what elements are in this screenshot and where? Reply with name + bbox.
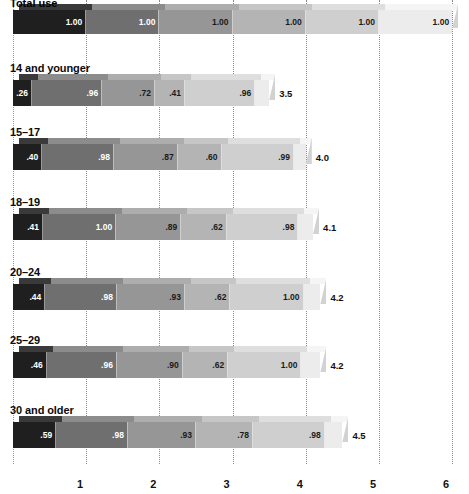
bar-segment[interactable]: .93: [128, 422, 196, 448]
segment-value-label: .41: [169, 89, 181, 98]
segment-value-label: .87: [162, 153, 174, 162]
segment-value-label: 1.00: [433, 18, 450, 27]
row-total-label: 3.5: [279, 88, 292, 99]
bar-segment[interactable]: [304, 284, 321, 310]
segment-value-label: .26: [16, 89, 28, 98]
bar-segment[interactable]: .98: [45, 284, 117, 310]
segment-value-label: 1.00: [285, 18, 302, 27]
bar-segment[interactable]: .59: [13, 422, 56, 448]
bar-top-segment: [233, 208, 305, 214]
bar-segment[interactable]: .62: [185, 284, 230, 310]
segment-value-label: .59: [40, 431, 52, 440]
bar-top-segment: [184, 138, 228, 144]
segment-value-label: .62: [215, 293, 227, 302]
x-axis-tick-3: 3: [223, 478, 232, 490]
bar-top-segment: [19, 278, 51, 284]
bar-top-segment: [51, 278, 123, 284]
bar-top-segment: [134, 416, 202, 422]
x-axis-tick-5: 5: [370, 478, 379, 490]
stacked-bar[interactable]: 1.001.001.001.001.001.00: [13, 10, 452, 34]
stacked-bar[interactable]: .46.96.90.621.00: [13, 352, 320, 378]
row-total-label: 4.5: [352, 430, 365, 441]
bar-segment[interactable]: 1.00: [306, 10, 379, 34]
bar-segment[interactable]: .90: [117, 352, 183, 378]
row-label: 18–19: [10, 196, 40, 208]
bar-segment[interactable]: 1.00: [228, 352, 301, 378]
bar-segment[interactable]: 1.00: [13, 10, 86, 34]
bar-segment[interactable]: .99: [222, 144, 294, 170]
bar-segment[interactable]: .93: [117, 284, 185, 310]
stacked-bar[interactable]: .411.00.89.62.98: [13, 214, 313, 240]
bar-top-segment: [49, 208, 122, 214]
bar-segment[interactable]: .26: [13, 80, 32, 106]
bar-segment[interactable]: [294, 144, 306, 170]
row-total-label: 4.2: [330, 292, 343, 303]
segment-value-label: .46: [31, 361, 43, 370]
bar-segment[interactable]: .78: [196, 422, 253, 448]
bar-segment[interactable]: 1.00: [86, 10, 159, 34]
bar-segment[interactable]: .98: [227, 214, 299, 240]
bar-top-segment: [385, 4, 458, 10]
segment-value-label: 1.00: [281, 361, 298, 370]
bar-segment[interactable]: [298, 214, 313, 240]
bar-top-segment: [202, 416, 259, 422]
bar-segment[interactable]: .60: [178, 144, 222, 170]
bar-segment[interactable]: 1.00: [43, 214, 116, 240]
bar-top-face: [19, 346, 326, 352]
segment-value-label: .60: [206, 153, 218, 162]
bar-top-segment: [312, 4, 385, 10]
row-label: 25–29: [10, 334, 40, 346]
segment-value-label: .96: [86, 89, 98, 98]
stacked-bar[interactable]: .26.96.72.41.96: [13, 80, 269, 106]
gridline-5: [379, 0, 380, 464]
bar-segment[interactable]: .41: [155, 80, 185, 106]
bar-top-segment: [161, 74, 191, 80]
bar-top-segment: [19, 208, 49, 214]
bar-segment[interactable]: .40: [13, 144, 42, 170]
stacked-bar[interactable]: .40.98.87.60.99: [13, 144, 306, 170]
bar-segment[interactable]: .98: [253, 422, 325, 448]
bar-segment[interactable]: 1.00: [233, 10, 306, 34]
segment-value-label: .44: [29, 293, 41, 302]
row-total-label: 4.1: [323, 222, 336, 233]
bar-segment[interactable]: .87: [114, 144, 178, 170]
segment-value-label: .41: [27, 223, 39, 232]
segment-value-label: .98: [101, 293, 113, 302]
bar-segment[interactable]: .46: [13, 352, 47, 378]
bar-segment[interactable]: .62: [181, 214, 226, 240]
bar-segment[interactable]: 1.00: [379, 10, 452, 34]
bar-segment[interactable]: .41: [13, 214, 43, 240]
bar-segment[interactable]: .72: [102, 80, 155, 106]
stacked-bar[interactable]: .59.98.93.78.98: [13, 422, 342, 448]
bar-top-segment: [191, 74, 261, 80]
segment-value-label: 1.00: [358, 18, 375, 27]
bar-segment[interactable]: [301, 352, 320, 378]
row-total-label: 4.0: [316, 152, 329, 163]
stacked-bar[interactable]: .44.98.93.621.00: [13, 284, 320, 310]
bar-segment[interactable]: .96: [47, 352, 117, 378]
bar-segment[interactable]: .62: [183, 352, 228, 378]
bar-top-segment: [310, 278, 327, 284]
bar-segment[interactable]: [325, 422, 343, 448]
row-label: 20–24: [10, 266, 40, 278]
bar-top-segment: [19, 74, 38, 80]
bar-top-face: [19, 208, 319, 214]
bar-segment[interactable]: 1.00: [159, 10, 232, 34]
bar-segment[interactable]: [255, 80, 269, 106]
bar-segment[interactable]: .98: [56, 422, 128, 448]
bar-top-segment: [92, 4, 165, 10]
segment-value-label: 1.00: [212, 18, 229, 27]
bar-top-segment: [165, 4, 238, 10]
bar-top-segment: [239, 4, 312, 10]
bar-segment[interactable]: .96: [185, 80, 255, 106]
bar-top-segment: [122, 208, 187, 214]
bar-top-segment: [62, 416, 134, 422]
bar-segment[interactable]: .89: [116, 214, 181, 240]
bar-segment[interactable]: .98: [42, 144, 114, 170]
bar-segment[interactable]: .96: [32, 80, 102, 106]
bar-segment[interactable]: .44: [13, 284, 45, 310]
bar-top-segment: [307, 346, 326, 352]
bar-segment[interactable]: 1.00: [230, 284, 303, 310]
bar-top-face: [19, 138, 312, 144]
gridline-6: [452, 0, 453, 464]
